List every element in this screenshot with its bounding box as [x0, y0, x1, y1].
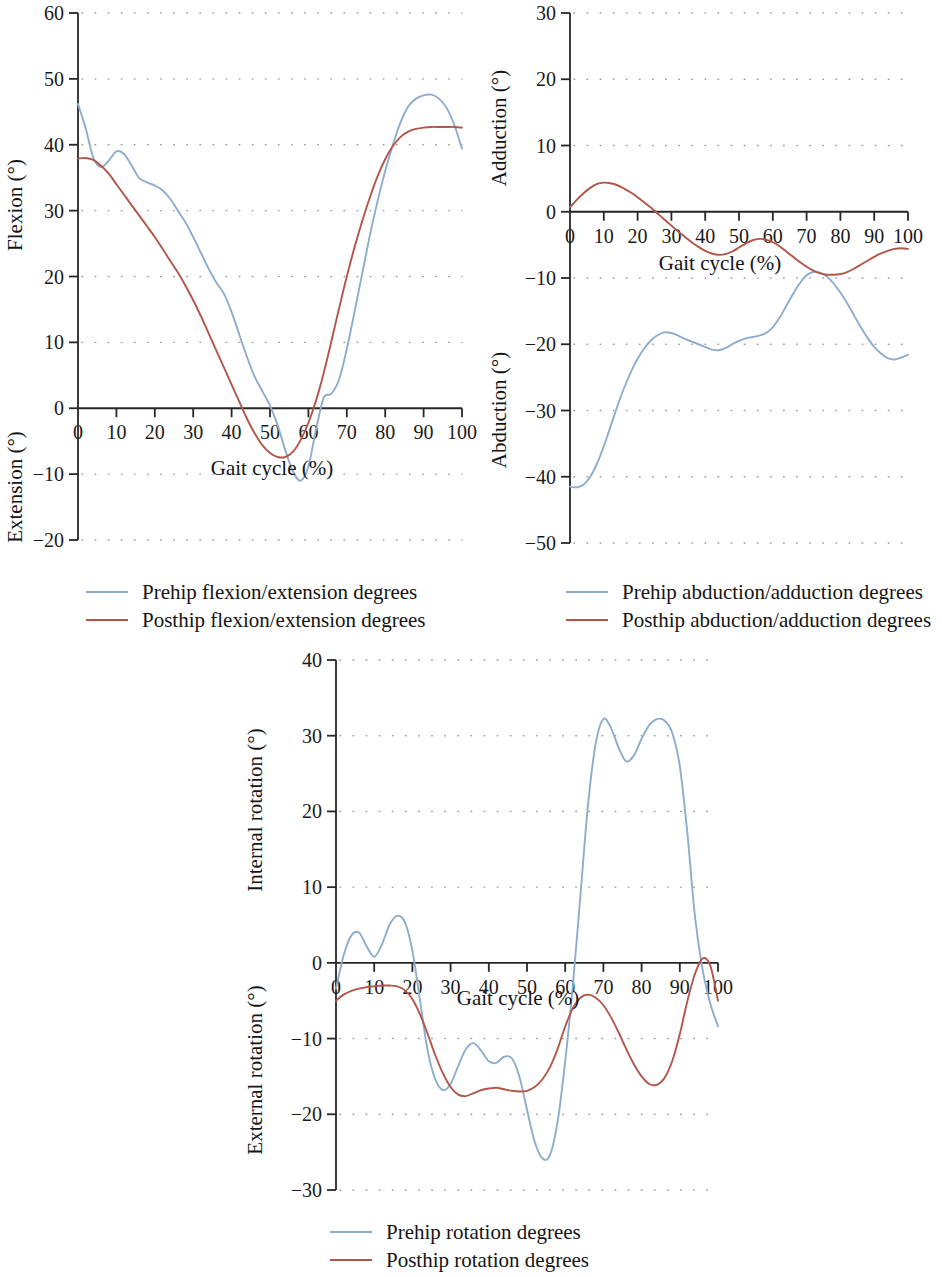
x-tick-label: 90 — [414, 421, 434, 443]
legend-swatch-posthip — [566, 619, 608, 621]
x-tick-label: 20 — [145, 421, 165, 443]
y-tick-label: 40 — [302, 649, 322, 671]
legend-swatch-prehip — [86, 591, 128, 593]
x-tick-label: 60 — [763, 225, 783, 247]
y-tick-label: 10 — [302, 876, 322, 898]
y-tick-label: 0 — [312, 952, 322, 974]
legend-label-posthip: Posthip rotation degrees — [386, 1250, 589, 1271]
x-tick-label: 80 — [375, 421, 395, 443]
legend-swatch-posthip — [330, 1259, 372, 1261]
x-tick-label: 100 — [447, 421, 477, 443]
y-tick-label: 0 — [54, 397, 64, 419]
y-tick-label: 40 — [44, 134, 64, 156]
legend-item: Prehip flexion/extension degrees — [86, 578, 425, 606]
y-tick-label: −20 — [33, 529, 64, 551]
y-axis-title-positive: Internal rotation (°) — [243, 728, 267, 892]
chart-hip-abduction-adduction: −50−40−30−20−100102030010203040506070809… — [478, 0, 942, 640]
x-tick-label: 70 — [337, 421, 357, 443]
y-axis-title-negative: External rotation (°) — [243, 985, 267, 1154]
y-tick-label: 30 — [302, 725, 322, 747]
y-tick-label: 30 — [44, 200, 64, 222]
x-tick-label: 30 — [183, 421, 203, 443]
x-tick-label: 30 — [661, 225, 681, 247]
x-tick-label: 0 — [73, 421, 83, 443]
legend-label-prehip: Prehip flexion/extension degrees — [142, 582, 417, 603]
x-tick-label: 80 — [632, 976, 652, 998]
x-axis-title: Gait cycle (%) — [457, 986, 579, 1010]
x-tick-label: 20 — [628, 225, 648, 247]
y-tick-label: 20 — [536, 68, 556, 90]
legend-item: Posthip flexion/extension degrees — [86, 606, 425, 634]
series-line-prehip — [570, 272, 908, 488]
legend-swatch-prehip — [566, 591, 608, 593]
y-tick-label: 20 — [44, 266, 64, 288]
x-tick-label: 70 — [593, 976, 613, 998]
legend-label-posthip: Posthip abduction/adduction degrees — [622, 610, 931, 631]
legend-swatch-posthip — [86, 619, 128, 621]
y-tick-label: −20 — [291, 1103, 322, 1125]
y-tick-label: −10 — [291, 1028, 322, 1050]
x-tick-label: 10 — [594, 225, 614, 247]
y-tick-label: 10 — [536, 135, 556, 157]
x-tick-label: 40 — [222, 421, 242, 443]
x-tick-label: 10 — [106, 421, 126, 443]
y-tick-label: −50 — [525, 532, 556, 554]
x-tick-label: 80 — [830, 225, 850, 247]
legend-item: Prehip abduction/adduction degrees — [566, 578, 931, 606]
y-tick-label: 0 — [546, 201, 556, 223]
hip-rotation-plot: −30−20−100102030400102030405060708090100… — [228, 640, 758, 1210]
y-tick-label: −10 — [33, 463, 64, 485]
legend-swatch-prehip — [330, 1231, 372, 1233]
y-tick-label: 20 — [302, 800, 322, 822]
x-tick-label: 100 — [893, 225, 923, 247]
y-tick-label: −30 — [291, 1179, 322, 1201]
legend-item: Posthip rotation degrees — [330, 1246, 589, 1274]
legend-item: Posthip abduction/adduction degrees — [566, 606, 931, 634]
y-tick-label: 50 — [44, 68, 64, 90]
chart-hip-flexion-extension: −20−100102030405060010203040506070809010… — [0, 0, 480, 640]
y-tick-label: −20 — [525, 333, 556, 355]
y-axis-title-positive: Adduction (°) — [487, 70, 511, 186]
y-tick-label: 30 — [536, 2, 556, 24]
x-tick-label: 90 — [864, 225, 884, 247]
y-tick-label: −30 — [525, 400, 556, 422]
x-tick-label: 70 — [797, 225, 817, 247]
x-tick-label: 0 — [565, 225, 575, 247]
x-axis-title: Gait cycle (%) — [211, 456, 333, 480]
y-axis-title-negative: Abduction (°) — [487, 352, 511, 468]
legend-hip-rotation: Prehip rotation degrees Posthip rotation… — [330, 1218, 589, 1274]
y-axis-title-positive: Flexion (°) — [3, 159, 27, 251]
y-tick-label: 10 — [44, 331, 64, 353]
legend-item: Prehip rotation degrees — [330, 1218, 589, 1246]
y-tick-label: −10 — [525, 267, 556, 289]
legend-label-prehip: Prehip abduction/adduction degrees — [622, 582, 923, 603]
hip-abduction-adduction-plot: −50−40−30−20−100102030010203040506070809… — [478, 0, 942, 570]
y-tick-label: −40 — [525, 466, 556, 488]
chart-hip-rotation: −30−20−100102030400102030405060708090100… — [228, 640, 758, 1277]
x-axis-title: Gait cycle (%) — [659, 251, 781, 275]
x-tick-label: 40 — [695, 225, 715, 247]
y-axis-title-negative: Extension (°) — [3, 431, 27, 543]
x-tick-label: 90 — [670, 976, 690, 998]
series-line-prehip — [336, 719, 718, 1160]
legend-hip-abduction-adduction: Prehip abduction/adduction degrees Posth… — [566, 578, 931, 634]
legend-label-prehip: Prehip rotation degrees — [386, 1222, 581, 1243]
legend-hip-flexion-extension: Prehip flexion/extension degrees Posthip… — [86, 578, 425, 634]
y-tick-label: 60 — [44, 2, 64, 24]
hip-flexion-extension-plot: −20−100102030405060010203040506070809010… — [0, 0, 480, 570]
legend-label-posthip: Posthip flexion/extension degrees — [142, 610, 425, 631]
